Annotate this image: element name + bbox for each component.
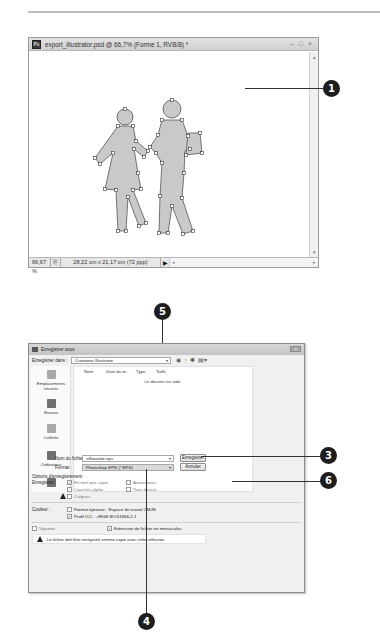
callout-3-leader-line [201, 456, 322, 457]
document-title-bar[interactable]: Ps export_illustrator.psd @ 66,7% (Forme… [29, 38, 318, 51]
callout-3-badge: 3 [320, 447, 337, 464]
minimize-icon[interactable]: – [290, 40, 294, 47]
option-as-copy-checkbox[interactable]: ✓En tant que copie [67, 480, 108, 485]
icc-profile-checkbox[interactable]: ✓Profil ICC : sRGB IEC61966-2.1 [67, 514, 136, 519]
option-spot-colors-checkbox[interactable]: Tons directs [126, 487, 156, 492]
thumbnail-checkbox[interactable]: Vignette [32, 526, 55, 531]
color-label: Couleur : [32, 507, 50, 512]
up-folder-icon[interactable]: ↑ [184, 357, 187, 363]
callout-4-leader-line [146, 469, 147, 614]
save-in-label: Enregistrer dans : [32, 358, 68, 363]
document-info-icon[interactable]: ⎘ [51, 258, 61, 267]
chevron-down-icon: ▾ [166, 358, 168, 364]
file-list[interactable]: Nom Date de m... Type Taille Le dossier … [73, 366, 253, 492]
divider [32, 502, 301, 503]
column-header-type[interactable]: Type [136, 369, 145, 374]
user-folder-icon [47, 424, 56, 433]
status-menu-arrow-icon[interactable]: ▶ [161, 259, 169, 266]
place-recent[interactable]: Emplacements récents [31, 370, 71, 391]
empty-folder-message: Le dossier est vide. [74, 379, 252, 384]
place-user[interactable]: Collette [31, 424, 71, 440]
warning-message-box: Le fichier doit être enregistré comme co… [32, 534, 206, 544]
dialog-title: Enregistrer sous [41, 347, 74, 352]
horizontal-scrollbar[interactable]: ◂ ▸ [169, 258, 318, 267]
option-alpha-channels-checkbox[interactable]: Couches alpha [67, 487, 103, 492]
desktop-icon [47, 399, 56, 408]
column-header-size[interactable]: Taille [156, 369, 166, 374]
place-desktop[interactable]: Bureau [31, 399, 71, 415]
chevron-down-icon: ▾ [169, 456, 171, 462]
callout-5-badge: 5 [154, 303, 171, 320]
save-in-value: Creations Illustrator [75, 358, 113, 363]
warning-icon [37, 536, 43, 542]
scroll-up-icon[interactable]: ▴ [310, 53, 318, 61]
callout-1-leader-line [245, 88, 325, 89]
vertical-scrollbar[interactable]: ▴ ▾ [309, 52, 318, 257]
callout-6-badge: 6 [320, 472, 337, 489]
column-header-date[interactable]: Date de m... [106, 369, 129, 374]
close-icon[interactable]: × [308, 40, 312, 47]
back-icon[interactable]: ◉ [176, 357, 181, 363]
dialog-close-button[interactable]: ✕ [290, 346, 301, 352]
new-folder-icon[interactable]: ✱ [190, 357, 195, 363]
recent-places-icon [47, 370, 56, 379]
lowercase-extension-checkbox[interactable]: ✓Extension de fichier en minuscules [107, 526, 182, 531]
warning-message: Le fichier doit être enregistré comme co… [47, 537, 165, 542]
format-label: Format : [55, 465, 72, 470]
cancel-button[interactable]: Annuler [180, 463, 206, 471]
callout-6-leader-line [232, 481, 322, 482]
dialog-title-bar[interactable]: Enregistrer sous ✕ [29, 344, 304, 355]
view-menu-icon[interactable]: ▤▾ [198, 357, 207, 363]
option-layers-checkbox[interactable]: Calques [67, 494, 90, 499]
document-size: 28,22 cm x 21,17 cm (72 ppp) [61, 258, 161, 267]
file-name-input[interactable]: silhouette.eps ▾ [82, 455, 174, 462]
chevron-down-icon: ▾ [169, 465, 171, 471]
option-annotations-checkbox[interactable]: Annotations [126, 480, 156, 485]
format-dropdown[interactable]: Photoshop EPS (*.EPS) ▾ [82, 464, 174, 471]
save-label: Enregistrer : [32, 480, 57, 485]
column-header-name[interactable]: Nom [84, 369, 93, 374]
divider [32, 522, 301, 523]
proof-setup-checkbox[interactable]: Format épreuve : Espace de travail CMJN [67, 507, 156, 512]
maximize-icon[interactable]: □ [299, 40, 303, 47]
silhouette-paths-illustration[interactable] [78, 93, 228, 243]
warning-icon [60, 493, 66, 499]
dialog-app-icon [32, 347, 38, 352]
scroll-left-icon[interactable]: ◂ [172, 258, 175, 267]
top-divider [28, 11, 380, 13]
zoom-level-field[interactable]: 66,67 % [29, 258, 51, 267]
callout-1-badge: 1 [323, 80, 340, 97]
save-options-heading: Options d'enregistrement [32, 474, 82, 479]
document-status-bar: 66,67 % ⎘ 28,22 cm x 21,17 cm (72 ppp) ▶… [29, 257, 318, 267]
document-title: export_illustrator.psd @ 66,7% (Forme 1,… [45, 41, 188, 48]
save-as-dialog: Enregistrer sous ✕ Enregistrer dans : Cr… [28, 343, 305, 593]
scroll-right-icon[interactable]: ▸ [313, 258, 316, 267]
save-in-dropdown[interactable]: Creations Illustrator ▾ [71, 357, 171, 364]
scroll-down-icon[interactable]: ▾ [310, 248, 318, 256]
photoshop-app-icon: Ps [32, 40, 41, 49]
callout-4-badge: 4 [138, 613, 155, 630]
